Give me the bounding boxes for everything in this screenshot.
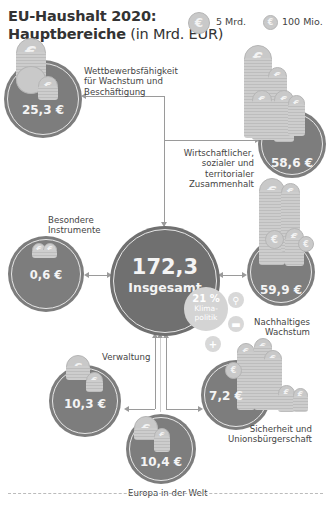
legend-small-label: 100 Mio. [282, 17, 323, 27]
connector-sicherheit-h [166, 409, 200, 410]
label-verwaltung: Verwaltung [102, 352, 150, 362]
coin-icon: € [225, 362, 242, 379]
car-icon: ▬ [228, 316, 244, 332]
title-sub-light: (in Mrd. EUR) [126, 26, 223, 42]
divider [8, 493, 323, 494]
label-besondere: BesondereInstrumente [48, 215, 101, 236]
climate-badge: 21 % Klima- politik [184, 287, 228, 331]
climate-pct: 21 % [184, 293, 228, 304]
value-sicherheit: 7,2 € [201, 389, 251, 403]
legend-small-coin-icon: € [263, 15, 278, 30]
connector-vertical-top [164, 96, 165, 226]
value-europa: 10,4 € [126, 455, 196, 469]
value-wettbewerb: 25,3 € [4, 103, 82, 117]
label-wettbewerb: Wettbewerbsfähigkeitfür Wachstum undBesc… [84, 66, 178, 97]
label-sicherheit: Sicherheit undUnionsbürgerschaft [222, 424, 312, 445]
arrow-left-icon [84, 272, 89, 278]
plus-icon: + [205, 336, 221, 352]
connector-verwaltung-v [155, 336, 156, 409]
connector-sicherheit-v [166, 336, 167, 409]
arrow-left-icon [124, 406, 129, 412]
coin-icon: € [298, 236, 314, 252]
label-kohaesion: Wirtschaftlicher,sozialer undterritorial… [168, 148, 254, 190]
value-besondere: 0,6 € [8, 268, 84, 282]
label-nachhaltig: NachhaltigesWachstum [248, 317, 310, 338]
coin-icon: € [265, 230, 284, 249]
value-verwaltung: 10,3 € [49, 397, 121, 411]
legend-big-label: 5 Mrd. [216, 17, 246, 27]
connector-verwaltung-h [127, 409, 155, 410]
legend-big-coin-icon: € [188, 12, 210, 34]
connector-europa [160, 336, 161, 412]
connector-kohaesion [164, 140, 257, 141]
search-icon: ⚲ [228, 292, 244, 308]
connector-nachhaltig [220, 275, 244, 276]
total-value: 172,3 [110, 255, 220, 279]
climate-label-2: politik [184, 313, 228, 322]
climate-label-1: Klima- [184, 304, 228, 313]
value-nachhaltig: 59,9 € [247, 283, 315, 297]
value-kohaesion: 58,6 € [258, 156, 326, 170]
